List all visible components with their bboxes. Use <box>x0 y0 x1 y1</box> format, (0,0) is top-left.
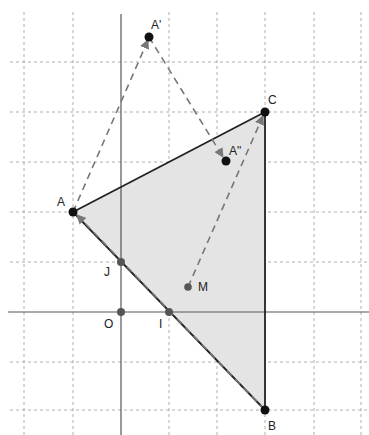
point-c[interactable] <box>261 108 270 117</box>
geometry-figure: A B C A' A" M O I J <box>0 0 369 435</box>
point-o[interactable] <box>117 308 125 316</box>
label-o: O <box>104 317 113 331</box>
point-m[interactable] <box>184 283 192 291</box>
label-a-double-prime: A" <box>229 144 241 158</box>
label-b: B <box>268 419 276 433</box>
label-i: I <box>159 317 162 331</box>
point-i[interactable] <box>165 308 173 316</box>
label-c: C <box>268 93 277 107</box>
point-a[interactable] <box>69 208 78 217</box>
label-a: A <box>57 195 65 209</box>
label-m: M <box>198 280 208 294</box>
point-j[interactable] <box>117 258 125 266</box>
point-b[interactable] <box>261 406 270 415</box>
label-j: J <box>104 265 110 279</box>
label-a-prime: A' <box>151 18 161 32</box>
point-a-prime[interactable] <box>145 33 154 42</box>
